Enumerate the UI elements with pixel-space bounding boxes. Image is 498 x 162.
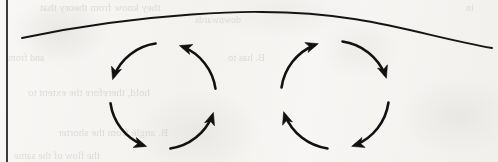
left-circulation-loop xyxy=(111,44,216,149)
top-curved-line xyxy=(22,12,492,48)
scanned-figure-page: they know from theory that downwards B. … xyxy=(0,0,498,162)
right-circulation-loop xyxy=(282,42,389,149)
diagram-artwork xyxy=(0,0,498,162)
